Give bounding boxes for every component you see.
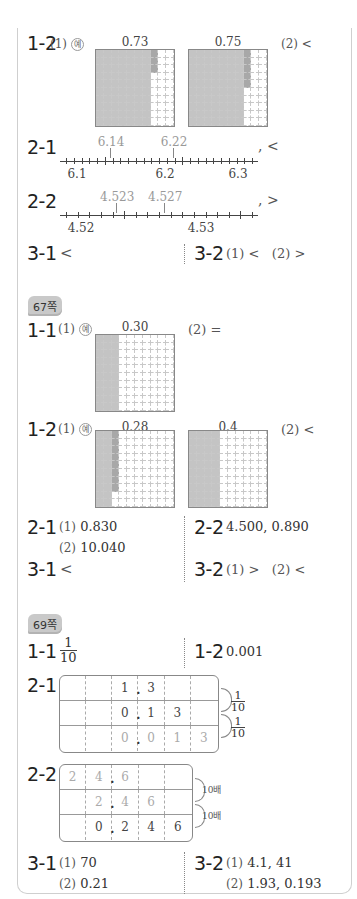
grid-cell [96,477,104,485]
grid-cell [96,365,104,373]
grid-cell [212,492,220,500]
column-divider [184,516,185,582]
question-label: 2-2 [27,190,57,212]
grid-cell [251,469,259,477]
grid-cell [244,484,252,492]
grid-cell [251,431,259,439]
grid-cell [197,111,205,119]
grid-cell [197,499,205,507]
tick-mark [229,212,230,218]
grid-cell [158,365,166,373]
tick-mark [244,158,245,164]
grid-cell [197,58,205,66]
grid-cell [127,454,135,462]
grid-cell [112,431,120,439]
grid-cell [166,358,174,366]
grid-cell [251,103,259,111]
grid-cell [205,499,213,507]
grid-cell [236,103,244,111]
grid-cell [166,96,174,104]
hundred-grid-0.30 [95,334,175,412]
grid-cell [96,343,104,351]
table-cell: 2 [112,815,138,840]
grid-cell [197,469,205,477]
grid-cell [212,477,220,485]
grid-cell [158,396,166,404]
table-cell: 1 [138,701,164,725]
answer-text: (2) < [281,35,312,51]
grid-cell [151,446,159,454]
hundred-grid-0.73 [95,49,175,127]
tick-mark [105,157,106,165]
grid-cell [143,477,151,485]
grid-cell [112,80,120,88]
grid-cell [119,88,127,96]
grid-cell [135,484,143,492]
grid-cell [112,388,120,396]
grid-cell [119,373,127,381]
grid-cell [127,477,135,485]
answer-text: , > [258,192,279,208]
grid-cell [197,461,205,469]
tick-mark [89,212,90,218]
grid-cell [212,461,220,469]
grid-cell [143,50,151,58]
grid-cell [151,477,159,485]
tick-mark [206,158,207,164]
grid-cell [104,454,112,462]
table-cell [191,676,217,700]
grid-cell [119,477,127,485]
grid-cell [158,388,166,396]
grid-cell [96,499,104,507]
grid-cell [205,484,213,492]
grid-cell [244,439,252,447]
grid-cell [135,88,143,96]
grid-cell [151,484,159,492]
grid-cell [259,50,267,58]
grid-cell [112,118,120,126]
grid-cell [135,350,143,358]
answer-text: (2) < [281,422,314,437]
grid-cell [251,73,259,81]
grid-cell [158,439,166,447]
grid-cell [259,454,267,462]
answer-text: (2) = [188,322,221,337]
answer-text: 0.001 [226,644,263,659]
tick-mark [206,212,207,218]
grid-cell [251,58,259,66]
grid-cell [104,88,112,96]
hundred-grid-0.75 [188,49,268,127]
grid-cell [166,88,174,96]
grid-cell [228,439,236,447]
grid-cell [104,499,112,507]
grid-cell [251,454,259,462]
hundred-grid-0.28 [95,430,175,508]
grid-cell [158,335,166,343]
answer-text: (1) > (2) < [226,562,305,577]
grid-cell [135,403,143,411]
table-cell [86,676,112,700]
grid-cell [259,499,267,507]
grid-cell [112,446,120,454]
grid-cell [197,118,205,126]
tick-mark [190,158,191,164]
grid-cell [189,454,197,462]
grid-cell [212,111,220,119]
grid-cell [236,111,244,119]
grid-cell [228,88,236,96]
grid-cell [127,73,135,81]
grid-cell [228,446,236,454]
grid-cell [166,477,174,485]
grid-cell [96,381,104,389]
grid-cell [112,73,120,81]
grid-cell [259,492,267,500]
grid-cell [127,373,135,381]
grid-cell [244,477,252,485]
arrow-down-icon [110,148,111,158]
grid-cell [151,50,159,58]
grid-cell [166,388,174,396]
grid-cell [236,446,244,454]
grid-cell [127,469,135,477]
grid-cell [166,65,174,73]
tick-mark [97,158,98,164]
